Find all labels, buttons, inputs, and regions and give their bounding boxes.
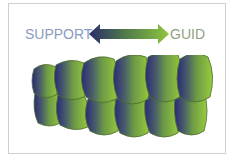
double-arrow-icon [89,24,169,44]
teeth-diagram [30,55,215,140]
support-label: SUPPORT [25,26,92,42]
upper-tooth-3 [81,57,118,103]
upper-tooth-6 [177,55,213,102]
lower-tooth-3 [85,97,119,135]
upper-tooth-4 [113,55,150,104]
guid-label: GUID [170,26,205,42]
